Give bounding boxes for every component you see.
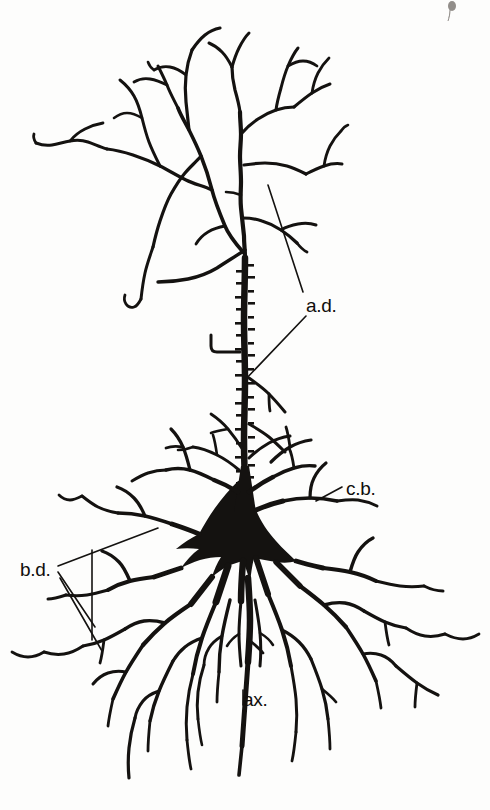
label-apical-dendrite: a.d. (306, 295, 337, 316)
axon (239, 578, 263, 775)
leader-lines (58, 185, 342, 705)
label-basal-dendrites: b.d. (20, 559, 51, 580)
corner-speck-icon (448, 1, 456, 21)
leader-basal-upper (58, 528, 158, 566)
leader-apical-upper (268, 185, 303, 292)
neuron-figure: a.d. c.b. b.d. ax. (0, 0, 490, 810)
leader-apical-lower (243, 316, 306, 382)
leader-basal-middle (58, 572, 95, 627)
label-cell-body: c.b. (346, 478, 375, 499)
neuron-illustration: a.d. c.b. b.d. ax. (0, 0, 490, 810)
apical-tuft (34, 28, 348, 307)
leader-basal-lower (60, 578, 102, 651)
label-axon: ax. (243, 689, 267, 710)
soma (154, 466, 323, 604)
